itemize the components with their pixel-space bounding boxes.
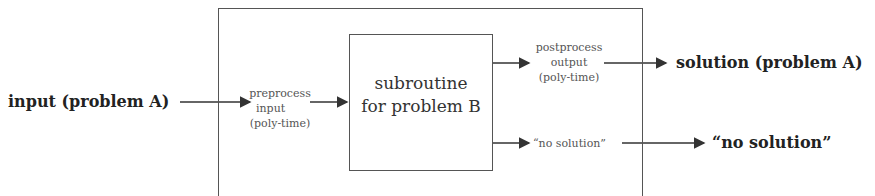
postprocess-label: postprocess output (poly-time) — [528, 40, 610, 85]
subroutine-label: subroutine for problem B — [349, 72, 493, 118]
preprocess-line-2: input — [240, 101, 320, 116]
preprocess-line-1: preprocess — [240, 86, 320, 101]
input-label: input (problem A) — [8, 92, 169, 111]
solution-label: solution (problem A) — [676, 53, 863, 72]
no-solution-outer-label: “no solution” — [712, 133, 831, 152]
postprocess-line-2: output — [528, 55, 610, 70]
subroutine-line-1: subroutine — [349, 72, 493, 95]
postprocess-line-1: postprocess — [528, 40, 610, 55]
preprocess-label: preprocess input (poly-time) — [240, 86, 320, 131]
preprocess-line-3: (poly-time) — [240, 116, 320, 131]
subroutine-line-2: for problem B — [349, 95, 493, 118]
no-solution-inner-label: “no solution” — [533, 136, 606, 151]
postprocess-line-3: (poly-time) — [528, 70, 610, 85]
